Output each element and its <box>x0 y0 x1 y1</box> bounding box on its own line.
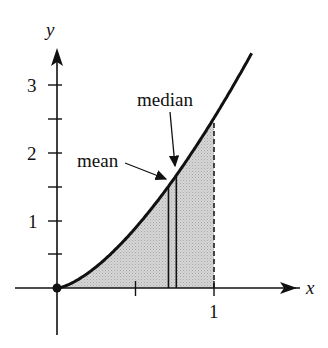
y-tick-label-3: 3 <box>27 75 37 96</box>
y-tick-label-1: 1 <box>28 211 38 232</box>
shaded-area <box>57 118 214 288</box>
y-ticks <box>48 85 62 254</box>
y-axis-label: y <box>44 19 55 40</box>
y-tick-label-2: 2 <box>27 143 37 164</box>
chart-canvas: y x 3 2 1 1 mean median <box>0 0 328 348</box>
x-axis-label: x <box>305 277 315 298</box>
mean-arrow <box>125 163 166 179</box>
median-label: median <box>137 89 193 110</box>
median-arrow <box>170 112 175 166</box>
x-tick-label-1: 1 <box>209 301 219 322</box>
origin-dot <box>53 284 62 293</box>
mean-label: mean <box>77 150 119 171</box>
